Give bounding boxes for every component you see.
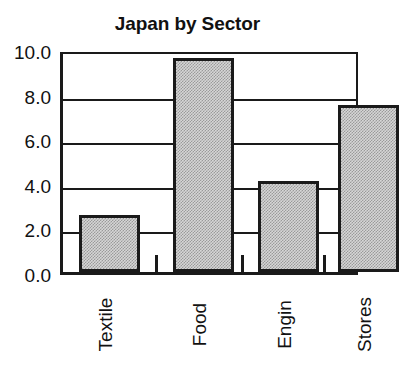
x-axis-ticks: [63, 54, 356, 272]
x-axis-category-labels: Textile Food Engin Stores: [60, 281, 358, 368]
y-axis-tick-label: 4.0: [25, 177, 51, 196]
y-axis-tick-label: 2.0: [25, 221, 51, 240]
chart-title: Japan by Sector: [0, 13, 375, 35]
x-axis-label-food: Food: [190, 281, 210, 368]
y-axis-tick-label: 0.0: [25, 266, 51, 285]
x-axis-label-stores: Stores: [355, 281, 375, 368]
y-axis-tick-label: 8.0: [25, 88, 51, 107]
x-axis-tick: [323, 255, 326, 272]
y-axis-tick-label: 6.0: [25, 132, 51, 151]
x-axis-tick: [241, 255, 244, 272]
x-axis-label-textile: Textile: [96, 281, 116, 368]
y-axis-tick-labels: 10.0 8.0 6.0 4.0 2.0 0.0: [0, 52, 55, 275]
x-axis-tick: [155, 255, 158, 272]
x-axis-label-engin: Engin: [275, 281, 295, 368]
plot-area: [60, 52, 358, 275]
y-axis-tick-label: 10.0: [14, 43, 51, 62]
